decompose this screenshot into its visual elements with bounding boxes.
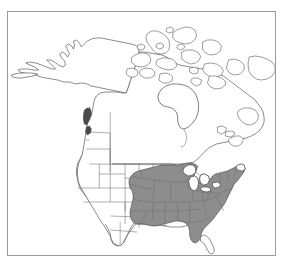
excluded-florida-peninsula [201,235,215,254]
north-america-map [8,12,275,255]
figure-container [0,0,284,266]
lake-superior-overlay [183,165,196,176]
lake-huron-overlay [200,174,210,185]
shaded-distribution-range [129,163,245,254]
landmass-greenland-edge [248,56,275,80]
landmass-alaska [11,38,139,93]
map-frame [7,11,276,256]
